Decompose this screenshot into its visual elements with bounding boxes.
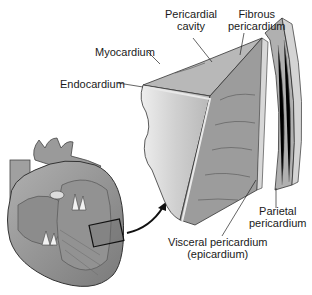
label-myocardium: Myocardium [95,46,155,58]
label-fibrous-pericardium-line1: Fibrous [228,8,285,20]
label-pericardial-cavity: Pericardial cavity [165,8,217,32]
label-endocardium: Endocardium [60,78,125,90]
label-visceral-pericardium-line2: (epicardium) [168,248,267,260]
magnify-arrow [127,207,163,233]
label-fibrous-pericardium-line2: pericardium [228,20,285,32]
heart-cross-section [8,138,124,286]
label-parietal-pericardium-line1: Parietal [249,205,306,217]
label-visceral-pericardium: Visceral pericardium (epicardium) [168,236,267,260]
label-pericardial-cavity-line2: cavity [165,20,217,32]
label-parietal-pericardium: Parietal pericardium [249,205,306,229]
label-fibrous-pericardium: Fibrous pericardium [228,8,285,32]
tissue-block [141,18,302,225]
label-visceral-pericardium-line1: Visceral pericardium [168,236,267,248]
label-parietal-pericardium-line2: pericardium [249,217,306,229]
label-pericardial-cavity-line1: Pericardial [165,8,217,20]
